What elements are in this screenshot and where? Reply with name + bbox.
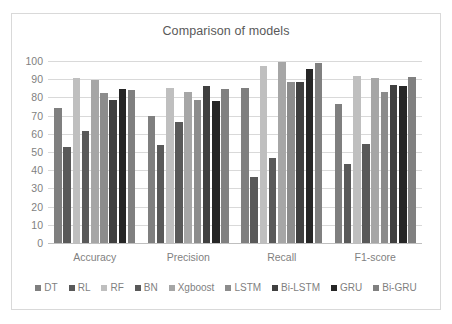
plot-area: 0102030405060708090100 AccuracyPrecision… — [48, 61, 422, 243]
bar-slot — [118, 61, 127, 243]
bar[interactable] — [109, 100, 117, 243]
legend-label: Bi-LSTM — [281, 283, 320, 293]
bar[interactable] — [175, 122, 183, 243]
x-axis-category-label: Precision — [142, 251, 236, 263]
legend-item[interactable]: GRU — [331, 283, 362, 293]
bar-slot — [398, 61, 407, 243]
bar-group: Accuracy — [48, 61, 142, 243]
bar[interactable] — [315, 63, 323, 243]
bar[interactable] — [119, 89, 127, 243]
bar-slot — [240, 61, 249, 243]
bar-slot — [296, 61, 305, 243]
legend-label: DT — [44, 283, 57, 293]
bar-groups: AccuracyPrecisionRecallF1-score — [48, 61, 422, 243]
bar[interactable] — [63, 147, 71, 243]
bar[interactable] — [260, 66, 268, 243]
legend-item[interactable]: RF — [101, 283, 123, 293]
legend-swatch-icon — [169, 285, 175, 291]
legend-item[interactable]: Bi-LSTM — [272, 283, 320, 293]
y-axis-tick-label: 30 — [31, 183, 43, 194]
bar[interactable] — [408, 77, 416, 243]
legend-swatch-icon — [35, 285, 41, 291]
bar[interactable] — [371, 78, 379, 243]
x-axis-category-label: F1-score — [329, 251, 423, 263]
bar[interactable] — [73, 78, 81, 243]
legend-label: RL — [78, 283, 91, 293]
bar-slot — [72, 61, 81, 243]
bar-slot — [352, 61, 361, 243]
bar[interactable] — [353, 76, 361, 243]
legend-item[interactable]: RL — [69, 283, 91, 293]
y-axis-tick-label: 10 — [31, 220, 43, 231]
bar-slot — [334, 61, 343, 243]
legend-item[interactable]: Bi-GRU — [373, 283, 416, 293]
y-axis-tick-label: 40 — [31, 165, 43, 176]
bar-slot — [220, 61, 229, 243]
bar[interactable] — [269, 158, 277, 243]
bar-slot — [314, 61, 323, 243]
legend-item[interactable]: LSTM — [225, 283, 261, 293]
bar[interactable] — [278, 62, 286, 243]
legend-swatch-icon — [272, 285, 278, 291]
bar-slot — [407, 61, 416, 243]
bar[interactable] — [344, 164, 352, 243]
legend-label: Bi-GRU — [382, 283, 416, 293]
bar-slot — [268, 61, 277, 243]
bar[interactable] — [203, 86, 211, 243]
legend-swatch-icon — [373, 285, 379, 291]
bar[interactable] — [128, 90, 136, 243]
bar-slot — [361, 61, 370, 243]
bar-slot — [343, 61, 352, 243]
bar-slot — [81, 61, 90, 243]
bar[interactable] — [381, 92, 389, 243]
bar[interactable] — [100, 93, 108, 243]
bar[interactable] — [221, 89, 229, 243]
bar[interactable] — [91, 80, 99, 243]
gridline — [48, 243, 422, 244]
bar[interactable] — [250, 177, 258, 243]
bar-slot — [277, 61, 286, 243]
bar-slot — [156, 61, 165, 243]
bar[interactable] — [184, 92, 192, 243]
bar-slot — [202, 61, 211, 243]
bar[interactable] — [390, 85, 398, 243]
bar-slot — [90, 61, 99, 243]
bar[interactable] — [335, 104, 343, 243]
bar[interactable] — [306, 69, 314, 243]
bar[interactable] — [157, 145, 165, 243]
bar[interactable] — [399, 86, 407, 243]
bar[interactable] — [241, 88, 249, 243]
bar-slot — [259, 61, 268, 243]
bar[interactable] — [194, 100, 202, 243]
legend-label: BN — [144, 283, 158, 293]
y-axis-tick-label: 100 — [25, 56, 43, 67]
legend-swatch-icon — [225, 285, 231, 291]
bar[interactable] — [54, 108, 62, 243]
bar-group: Precision — [142, 61, 236, 243]
bar-slot — [211, 61, 220, 243]
bar-slot — [380, 61, 389, 243]
bar[interactable] — [82, 131, 90, 243]
legend-swatch-icon — [331, 285, 337, 291]
bar[interactable] — [212, 101, 220, 244]
bar[interactable] — [287, 82, 295, 243]
bar[interactable] — [148, 116, 156, 243]
bar-slot — [184, 61, 193, 243]
bar[interactable] — [362, 144, 370, 243]
legend-item[interactable]: DT — [35, 283, 57, 293]
bar-slot — [250, 61, 259, 243]
bar-slot — [53, 61, 62, 243]
bar-slot — [371, 61, 380, 243]
legend-item[interactable]: BN — [135, 283, 158, 293]
bar[interactable] — [296, 82, 304, 243]
x-axis-category-label: Recall — [235, 251, 329, 263]
legend-label: RF — [110, 283, 123, 293]
y-axis-tick-label: 0 — [37, 238, 43, 249]
bar-slot — [193, 61, 202, 243]
y-axis-tick-label: 50 — [31, 147, 43, 158]
legend-item[interactable]: Xgboost — [169, 283, 215, 293]
bar-slot — [109, 61, 118, 243]
bar[interactable] — [166, 88, 174, 243]
y-axis-tick-label: 90 — [31, 74, 43, 85]
bar-group: Recall — [235, 61, 329, 243]
